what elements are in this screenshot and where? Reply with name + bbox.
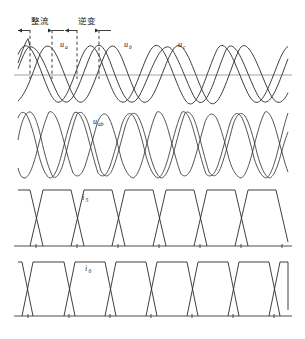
label-i5: i 5 xyxy=(82,193,89,203)
svg-text:i: i xyxy=(85,264,87,273)
measure-arrow-inversion xyxy=(65,29,111,33)
curve-i6 xyxy=(18,262,288,316)
label-uc: u c xyxy=(178,40,186,50)
label-ub: u b xyxy=(124,40,132,50)
curve-i5 xyxy=(18,190,288,246)
svg-text:u: u xyxy=(124,40,128,49)
label-uab: u ab xyxy=(93,117,104,127)
panel-valve-current-i6: i 6 xyxy=(14,262,292,318)
svg-text:u: u xyxy=(178,40,182,49)
label-ua: u a xyxy=(60,40,68,50)
svg-text:a: a xyxy=(65,44,68,50)
waveform-figure: 整流 逆变 u a u b u c xyxy=(0,0,305,339)
panel-valve-current-i5: i 5 xyxy=(14,190,292,248)
panel-three-phase-voltages: 整流 逆变 u a u b u c xyxy=(14,16,292,104)
svg-text:c: c xyxy=(183,44,186,50)
svg-text:b: b xyxy=(129,44,132,50)
svg-text:5: 5 xyxy=(86,197,89,203)
svg-text:u: u xyxy=(60,40,64,49)
measure-arrow-rectification xyxy=(18,29,64,33)
label-i6: i 6 xyxy=(85,264,92,274)
waveform-svg: 整流 逆变 u a u b u c xyxy=(0,0,305,339)
svg-text:ab: ab xyxy=(98,121,104,127)
svg-text:6: 6 xyxy=(89,268,92,274)
panel-rectified-line-voltage: u ab xyxy=(18,112,288,178)
svg-text:u: u xyxy=(93,117,97,126)
label-inversion: 逆变 xyxy=(78,16,96,26)
label-rectification: 整流 xyxy=(31,16,49,26)
svg-text:i: i xyxy=(82,193,84,202)
